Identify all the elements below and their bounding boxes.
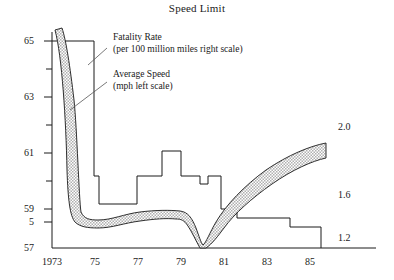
speed-limit-chart: Speed Limit 65 63 61 59 5 57 2.0 1.6 1.2… [0, 0, 394, 280]
average-speed-line [55, 30, 326, 248]
average-speed-leader-line [70, 82, 107, 110]
fatality-rate-leader-line [88, 48, 107, 65]
fatality-speed-band [55, 28, 326, 248]
y-axis-ticks [44, 41, 52, 222]
chart-plot-svg [0, 0, 394, 280]
fatality-rate-line [62, 28, 326, 245]
